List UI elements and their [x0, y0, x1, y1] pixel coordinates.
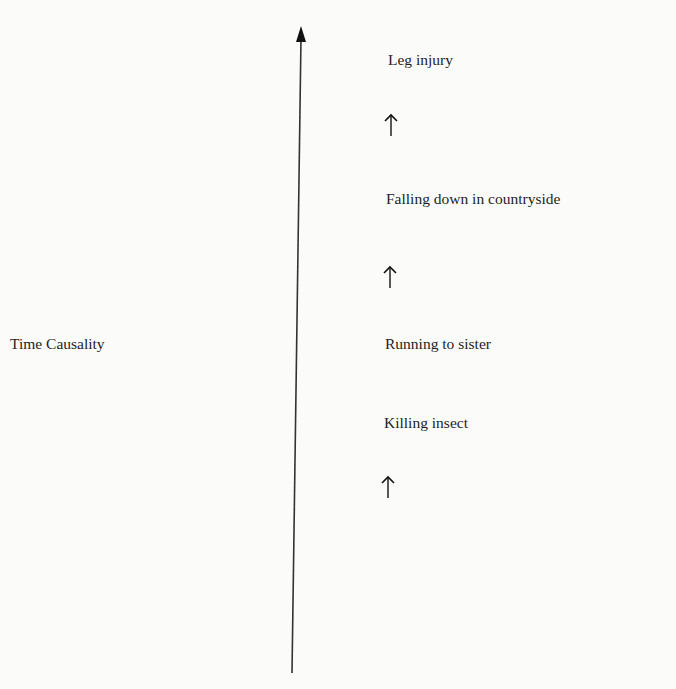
time-axis-line — [292, 38, 301, 673]
up-arrow-icon — [383, 265, 397, 289]
event-running-to-sister: Running to sister — [385, 336, 491, 352]
axis-label: Time Causality — [10, 336, 105, 352]
event-killing-insect: Killing insect — [384, 415, 468, 431]
event-falling-down: Falling down in countryside — [386, 191, 560, 207]
up-arrow-icon — [381, 475, 395, 499]
time-axis-arrowhead-icon — [296, 26, 306, 42]
up-arrow-icon — [384, 113, 398, 137]
event-leg-injury: Leg injury — [388, 52, 453, 68]
